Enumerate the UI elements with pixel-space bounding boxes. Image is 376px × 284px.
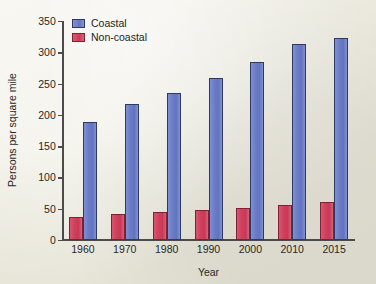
x-tick-label-1980: 1980	[155, 243, 178, 255]
bar-coastal-1990	[209, 78, 223, 240]
plot-area: 050100150200250300350	[62, 21, 355, 240]
y-tick-mark	[58, 52, 62, 53]
y-tick-mark	[58, 209, 62, 210]
legend-label-non-coastal: Non-coastal	[91, 31, 147, 43]
x-tick-label-1960: 1960	[71, 243, 94, 255]
bar-coastal-2015	[334, 38, 348, 240]
x-tick-label-2010: 2010	[281, 243, 304, 255]
y-tick-mark	[58, 177, 62, 178]
bar-non-coastal-1970	[111, 214, 125, 240]
bar-coastal-2010	[292, 44, 306, 240]
bar-non-coastal-2010	[278, 205, 292, 240]
x-tick-label-1970: 1970	[113, 243, 136, 255]
bar-non-coastal-2015	[320, 202, 334, 240]
bar-non-coastal-1960	[69, 217, 83, 240]
bar-chart: Persons per square mile 0501001502002503…	[0, 0, 376, 284]
y-tick-mark	[58, 146, 62, 147]
bar-coastal-1970	[125, 104, 139, 240]
y-tick-label: 0	[50, 234, 56, 246]
y-tick-label: 300	[38, 46, 56, 58]
bar-non-coastal-1990	[195, 210, 209, 240]
y-tick-label: 250	[38, 78, 56, 90]
y-tick-label: 150	[38, 140, 56, 152]
y-tick-label: 50	[44, 203, 56, 215]
legend-label-coastal: Coastal	[91, 17, 127, 29]
x-tick-label-1990: 1990	[197, 243, 220, 255]
bar-coastal-1960	[83, 122, 97, 240]
y-tick-mark	[58, 240, 62, 241]
legend-item-coastal: Coastal	[72, 17, 147, 29]
x-tick-label-2000: 2000	[239, 243, 262, 255]
y-tick-mark	[58, 21, 62, 22]
bar-non-coastal-2000	[236, 208, 250, 240]
bar-coastal-1980	[167, 93, 181, 240]
y-tick-mark	[58, 115, 62, 116]
bar-non-coastal-1980	[153, 212, 167, 240]
bar-coastal-2000	[250, 62, 264, 240]
chart-legend: Coastal Non-coastal	[72, 17, 147, 45]
legend-swatch-non-coastal-icon	[72, 33, 85, 42]
x-axis-title: Year	[62, 266, 355, 278]
y-tick-label: 200	[38, 109, 56, 121]
y-tick-label: 350	[38, 15, 56, 27]
legend-item-non-coastal: Non-coastal	[72, 31, 147, 43]
y-tick-mark	[58, 84, 62, 85]
y-axis-title: Persons per square mile	[6, 73, 18, 187]
x-tick-label-2015: 2015	[322, 243, 345, 255]
y-tick-label: 100	[38, 171, 56, 183]
legend-swatch-coastal-icon	[72, 19, 85, 28]
